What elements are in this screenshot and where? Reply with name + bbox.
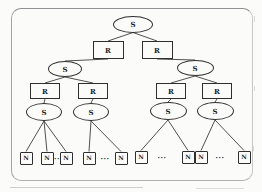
node-n-3: N bbox=[60, 152, 73, 165]
node-s-22: S bbox=[197, 102, 234, 120]
node-label: R bbox=[42, 88, 48, 95]
node-n-2: N bbox=[41, 152, 54, 165]
node-n-8: N bbox=[195, 151, 208, 164]
edge-s-21-n-6 bbox=[141, 120, 168, 151]
node-r-12: R bbox=[78, 83, 108, 99]
node-label: N bbox=[138, 154, 143, 160]
ellipsis-separator: ··· bbox=[158, 154, 167, 161]
node-r-21: R bbox=[156, 83, 186, 99]
edge-s-root-r-2 bbox=[133, 33, 157, 42]
node-r-2: R bbox=[142, 41, 173, 59]
node-s-l: S bbox=[48, 61, 82, 77]
scanned-figure-page: SRRSSRRRRSSSSNNNNNNNNN··········· bbox=[0, 0, 262, 192]
edge-s-11-n-2 bbox=[44, 121, 47, 152]
node-s-12: S bbox=[73, 103, 109, 121]
scan-artifact-speck bbox=[253, 146, 254, 151]
edge-s-r-r-21 bbox=[171, 76, 195, 83]
node-label: S bbox=[62, 66, 67, 73]
node-label: N bbox=[86, 155, 91, 161]
scan-artifact-speck bbox=[254, 86, 255, 91]
node-label: N bbox=[185, 154, 190, 160]
node-s-r: S bbox=[177, 60, 214, 76]
node-r-22: R bbox=[202, 83, 232, 99]
ellipsis-separator: ··· bbox=[216, 154, 225, 161]
node-label: N bbox=[241, 154, 246, 160]
node-n-6: N bbox=[135, 151, 148, 164]
node-label: S bbox=[88, 109, 93, 116]
node-label: N bbox=[63, 155, 68, 161]
scan-artifact-speck bbox=[254, 16, 255, 22]
node-n-7: N bbox=[182, 151, 195, 164]
edge-s-root-r-1 bbox=[108, 33, 133, 42]
edge-s-21-n-7 bbox=[168, 120, 188, 151]
node-label: S bbox=[130, 21, 135, 28]
node-r-1: R bbox=[93, 41, 124, 59]
node-s-21: S bbox=[150, 102, 187, 120]
node-label: R bbox=[154, 47, 160, 54]
node-label: R bbox=[105, 47, 111, 54]
edge-s-12-n-4 bbox=[89, 121, 91, 152]
node-label: N bbox=[198, 154, 203, 160]
node-n-4: N bbox=[83, 152, 96, 165]
node-s-root: S bbox=[113, 16, 153, 33]
edge-s-22-n-9 bbox=[215, 120, 244, 151]
edge-s-12-n-5 bbox=[91, 121, 121, 152]
node-label: S bbox=[41, 109, 46, 116]
node-label: R bbox=[168, 88, 174, 95]
node-n-1: N bbox=[20, 152, 33, 165]
node-r-11: R bbox=[30, 83, 60, 99]
node-label: N bbox=[44, 155, 49, 161]
node-label: S bbox=[192, 65, 197, 72]
scan-artifact-line bbox=[10, 187, 143, 188]
edge-s-r-r-22 bbox=[195, 76, 217, 83]
node-label: N bbox=[23, 155, 28, 161]
node-s-11: S bbox=[26, 103, 62, 121]
ellipsis-separator: ·· bbox=[54, 155, 60, 162]
node-label: R bbox=[90, 88, 96, 95]
edge-s-11-n-1 bbox=[26, 121, 44, 152]
node-n-5: N bbox=[115, 152, 128, 165]
node-label: R bbox=[214, 88, 220, 95]
node-label: S bbox=[165, 108, 170, 115]
node-n-9: N bbox=[238, 151, 251, 164]
node-label: S bbox=[212, 108, 217, 115]
edge-s-11-n-3 bbox=[44, 121, 66, 152]
node-label: N bbox=[118, 155, 123, 161]
edge-s-22-n-8 bbox=[201, 120, 215, 151]
scan-artifact-line bbox=[196, 188, 244, 189]
ellipsis-separator: ··· bbox=[101, 155, 110, 162]
